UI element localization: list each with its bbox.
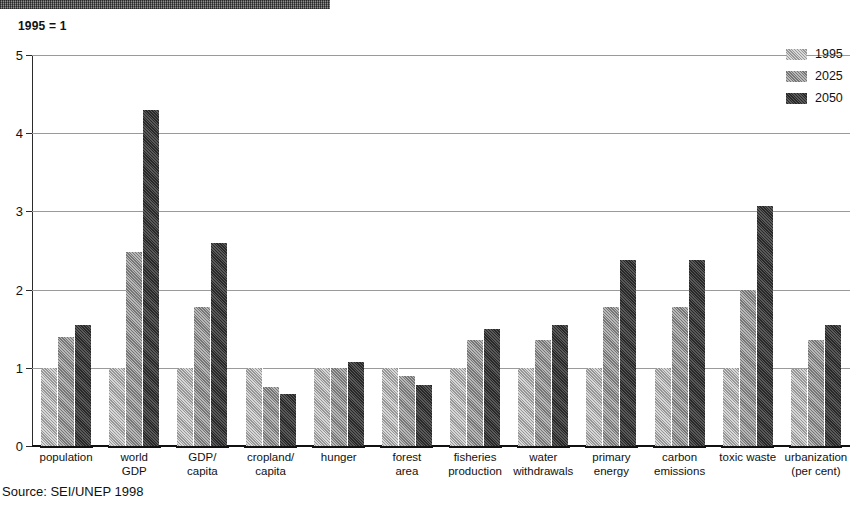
bar-2050 [280,394,296,446]
bar-group: carbon emissions [653,55,706,446]
bar-1995 [450,368,467,446]
legend-label-2025: 2025 [815,70,843,83]
bar-2025 [331,368,348,446]
bar-2050 [620,260,636,446]
bar-set [721,55,774,446]
x-axis-category-label: urbanization (per cent) [768,451,864,478]
bar-2025 [126,252,143,446]
bar-1995 [382,368,399,446]
bar-2050 [825,325,841,446]
bar-2025 [263,387,280,446]
legend-item: 2025 [786,68,843,85]
chart-subtitle: 1995 = 1 [18,19,67,33]
bar-set [244,55,297,446]
bar-set [40,55,93,446]
bar-1995 [41,368,58,446]
legend-label-1995: 1995 [815,48,843,61]
bar-set [176,55,229,446]
bar-group: forest area [380,55,433,446]
bar-2025 [467,340,484,446]
legend-item: 1995 [786,46,843,63]
bar-2050 [348,362,364,446]
legend-swatch-2025 [786,71,807,82]
bar-1995 [723,368,740,446]
bar-2050 [211,243,227,446]
bar-1995 [314,368,331,446]
bar-set [449,55,502,446]
bar-2050 [75,325,91,446]
legend-item: 2050 [786,90,843,107]
y-axis-tick-label: 2 [16,283,23,296]
bar-1995 [791,369,808,446]
bar-groups: populationworld GDPGDP/ capitacropland/ … [32,55,850,446]
bar-2025 [58,337,75,446]
bar-1995 [518,368,535,446]
bar-2025 [740,290,757,446]
y-axis-tick-label: 1 [16,361,23,374]
bar-2025 [535,340,552,446]
bar-2050 [689,260,705,446]
bar-group: GDP/ capita [176,55,229,446]
bar-set [108,55,161,446]
y-axis-tick-label: 5 [16,49,23,62]
bar-2050 [757,206,773,446]
bar-set [653,55,706,446]
bar-1995 [109,368,126,446]
bar-1995 [586,368,603,446]
bar-2025 [808,340,825,446]
bar-set [380,55,433,446]
y-axis-tick-label: 4 [16,127,23,140]
bar-2025 [603,307,620,446]
bar-2050 [484,329,500,446]
y-axis-tick-label: 3 [16,205,23,218]
chart-plot-area: 012345 populationworld GDPGDP/ capitacro… [32,55,850,446]
bar-group: water withdrawals [517,55,570,446]
legend-swatch-1995 [786,49,807,60]
source-note: Source: SEI/UNEP 1998 [2,484,143,499]
cropped-title-band [0,0,330,9]
legend-swatch-2050 [786,93,807,104]
bar-2050 [552,325,568,446]
bar-group: primary energy [585,55,638,446]
bar-set [517,55,570,446]
bar-group: fisheries production [449,55,502,446]
bar-2025 [399,376,416,446]
bar-1995 [655,368,672,446]
bar-group: hunger [312,55,365,446]
bar-group: cropland/ capita [244,55,297,446]
bar-2050 [143,110,159,446]
bar-group: toxic waste [721,55,774,446]
chart-legend: 1995 2025 2050 [786,46,843,112]
bar-group: population [40,55,93,446]
bar-2050 [416,385,432,446]
bar-2025 [194,307,211,446]
bar-group: world GDP [108,55,161,446]
bar-1995 [246,368,263,446]
bar-set [585,55,638,446]
bar-group: urbanization (per cent) [789,55,842,446]
bar-set [312,55,365,446]
bar-2025 [672,307,689,446]
bar-set [789,55,842,446]
legend-label-2050: 2050 [815,92,843,105]
bar-1995 [177,368,194,446]
y-axis-tick [26,446,32,447]
